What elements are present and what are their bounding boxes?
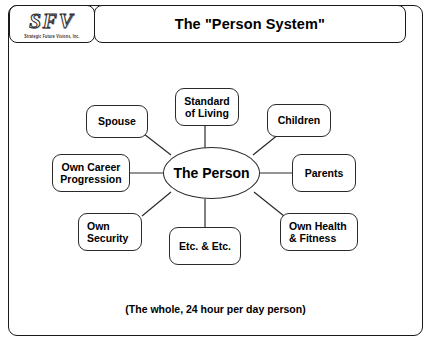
- node-label: Own Career Progression: [60, 161, 121, 186]
- node-label: Standard of Living: [184, 95, 230, 120]
- node-own-health-and-fitness[interactable]: Own Health & Fitness: [280, 213, 358, 251]
- node-spouse[interactable]: Spouse: [86, 105, 148, 138]
- node-own-security[interactable]: Own Security: [78, 213, 142, 251]
- node-label: Children: [278, 114, 321, 126]
- footer-caption: (The whole, 24 hour per day person): [8, 303, 423, 315]
- node-label: Own Security: [87, 220, 128, 245]
- node-label: Parents: [305, 167, 344, 179]
- node-etc-and-etc[interactable]: Etc. & Etc.: [169, 227, 241, 265]
- node-label: Own Health & Fitness: [289, 220, 347, 245]
- node-label: Etc. & Etc.: [179, 240, 231, 252]
- node-standard-of-living[interactable]: Standard of Living: [175, 88, 239, 126]
- node-own-career-progression[interactable]: Own Career Progression: [52, 154, 130, 192]
- center-node-label: The Person: [173, 165, 249, 181]
- node-children[interactable]: Children: [267, 104, 331, 137]
- node-parents[interactable]: Parents: [292, 154, 356, 192]
- node-label: Spouse: [98, 115, 136, 127]
- diagram-canvas: The Person Spouse Standard of Living Chi…: [8, 5, 423, 336]
- center-node-the-person[interactable]: The Person: [163, 147, 260, 199]
